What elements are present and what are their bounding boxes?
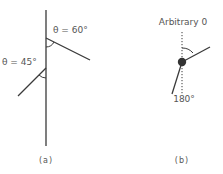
panel-b: Arbitrary 0 180° (b) bbox=[159, 17, 210, 165]
upper-angle-label: θ = 60° bbox=[53, 25, 88, 35]
one-eighty-label: 180° bbox=[173, 94, 195, 104]
upper-right-branch-line bbox=[182, 47, 210, 62]
panel-a: θ = 60° θ = 45° (a) bbox=[2, 10, 90, 165]
diagram-canvas: θ = 60° θ = 45° (a) Arbitrary 0 180° (b) bbox=[0, 0, 223, 174]
lower-angle-label: θ = 45° bbox=[2, 57, 37, 67]
upper-branch-line bbox=[46, 38, 90, 60]
angle-arc bbox=[182, 48, 193, 53]
lower-left-branch-line bbox=[172, 62, 182, 94]
lower-angle-arc bbox=[39, 75, 46, 78]
pivot-dot bbox=[178, 58, 186, 66]
upper-angle-arc bbox=[46, 42, 54, 47]
arbitrary-zero-label: Arbitrary 0 bbox=[159, 17, 208, 27]
lower-branch-line bbox=[18, 68, 46, 96]
caption-b: (b) bbox=[175, 156, 189, 165]
caption-a: (a) bbox=[39, 156, 53, 165]
